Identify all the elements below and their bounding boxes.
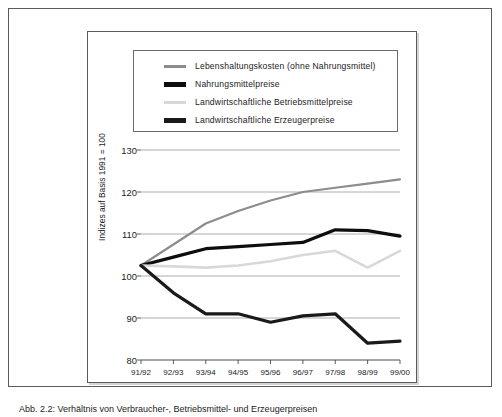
plot-area: Indizes auf Basis 1991 = 100 80901001101… — [88, 32, 418, 384]
x-tick-label: 99/00 — [390, 368, 410, 377]
x-tick-label: 98/99 — [358, 368, 378, 377]
y-tick-label: 130 — [103, 145, 137, 156]
figure-outer-frame: Lebenshaltungskosten (ohne Nahrungsmitte… — [8, 8, 492, 387]
x-tick-label: 93/94 — [196, 368, 216, 377]
x-tick-label: 97/98 — [325, 368, 345, 377]
figure-caption: Abb. 2.2: Verhältnis von Verbraucher-, B… — [19, 404, 317, 414]
x-tick-label: 92/93 — [163, 368, 183, 377]
y-tick-label: 80 — [103, 355, 137, 366]
y-tick-label: 120 — [103, 187, 137, 198]
x-tick-label: 96/97 — [293, 368, 313, 377]
y-tick-label: 90 — [103, 313, 137, 324]
x-tick-label: 95/96 — [260, 368, 280, 377]
x-tick-label: 91/92 — [131, 368, 151, 377]
x-tick-label: 94/95 — [228, 368, 248, 377]
chart-lines — [141, 150, 400, 360]
series-line — [141, 266, 400, 344]
y-tick-label: 110 — [103, 229, 137, 240]
chart-panel: Lebenshaltungskosten (ohne Nahrungsmitte… — [87, 31, 417, 383]
series-line — [141, 251, 400, 268]
y-tick-label: 100 — [103, 271, 137, 282]
